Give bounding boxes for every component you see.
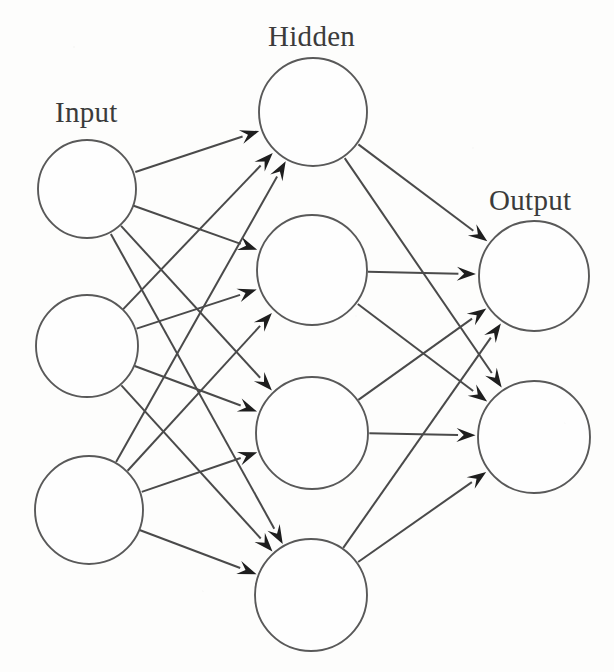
neural-network-figure: Input Hidden Output — [0, 0, 614, 672]
edge-line-i1-to-h1 — [135, 137, 242, 173]
edge-arrowhead-h1-to-o2 — [485, 368, 502, 388]
input-layer-label: Input — [55, 98, 118, 127]
node-hidden-h4 — [255, 539, 367, 651]
edge-line-i2-to-h1 — [123, 166, 261, 310]
hidden-layer-label: Hidden — [268, 22, 355, 51]
edge-arrowhead-h4-to-o1 — [484, 323, 501, 343]
edge-line-i3-to-h4 — [140, 530, 241, 568]
edge-line-i1-to-h3 — [121, 226, 260, 378]
nodes-group — [35, 58, 590, 651]
output-layer-label: Output — [489, 186, 571, 215]
node-output-o1 — [479, 221, 589, 331]
node-hidden-h1 — [259, 58, 367, 166]
edge-line-h3-to-o2 — [369, 433, 458, 435]
edge-arrowhead-h3-to-o1 — [467, 308, 487, 325]
edge-arrowhead-h4-to-o2 — [467, 472, 487, 489]
edge-arrowhead-h1-to-o1 — [468, 224, 487, 241]
edge-arrowhead-h3-to-o2 — [456, 428, 475, 442]
edge-line-h4-to-o2 — [358, 482, 472, 562]
edge-arrowhead-i3-to-h1 — [270, 161, 285, 181]
node-input-i1 — [38, 140, 136, 238]
edge-line-i3-to-h2 — [128, 326, 261, 471]
edge-line-h2-to-o1 — [368, 272, 459, 274]
edge-line-i1-to-h2 — [133, 206, 241, 244]
edge-arrowhead-h2-to-o2 — [468, 385, 487, 402]
edge-arrowhead-h2-to-o1 — [457, 267, 476, 281]
node-hidden-h3 — [256, 377, 368, 489]
edge-line-h2-to-o2 — [358, 304, 473, 391]
edge-line-i3-to-h1 — [116, 177, 277, 462]
edge-arrowhead-i1-to-h4 — [267, 524, 282, 544]
node-hidden-h2 — [257, 215, 367, 325]
node-input-i2 — [36, 295, 138, 397]
node-input-i3 — [35, 456, 143, 564]
edges-group — [111, 130, 502, 574]
node-output-o2 — [478, 381, 590, 493]
edge-line-h1-to-o1 — [358, 144, 473, 230]
